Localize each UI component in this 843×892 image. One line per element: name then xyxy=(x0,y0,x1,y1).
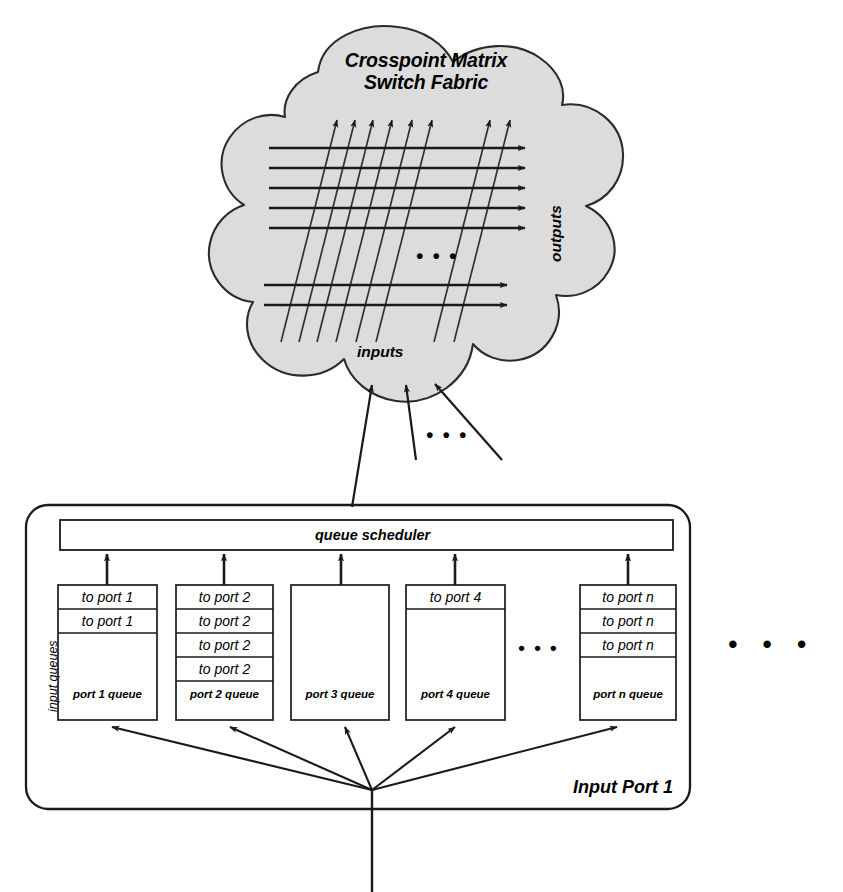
queue-cell: to port 1 xyxy=(58,614,157,630)
queue-cell: to port 2 xyxy=(176,590,273,606)
queue-cell: to port 2 xyxy=(176,614,273,630)
fabric-title: Crosspoint Matrix Switch Fabric xyxy=(337,50,515,94)
diagram-vector-layer xyxy=(0,0,843,892)
queue-columns-ellipsis: • • • xyxy=(518,637,559,658)
queue-cell: to port 2 xyxy=(176,638,273,654)
fabric-title-line-2: Switch Fabric xyxy=(337,72,515,94)
queue-cell: to port 1 xyxy=(58,590,157,606)
queue-to-scheduler-arrows xyxy=(107,554,628,585)
outer-ports-ellipsis: • • • xyxy=(728,630,815,659)
queue-cell: to port 2 xyxy=(176,662,273,678)
queue-name: port 2 queue xyxy=(176,688,273,701)
queue-cell: to port 4 xyxy=(406,590,505,606)
queue-cell: to port n xyxy=(580,614,676,630)
queue-name: port 4 queue xyxy=(406,688,505,701)
queue-name: port 1 queue xyxy=(58,688,157,701)
queue-cell: to port n xyxy=(580,590,676,606)
diagram-canvas: Crosspoint Matrix Switch Fabric • • • ou… xyxy=(0,0,843,892)
input-queues-label: input queues xyxy=(46,640,60,712)
feed-ellipsis: • • • xyxy=(426,424,468,446)
input-port-box-label: Input Port 1 xyxy=(573,777,673,797)
queue-scheduler-label: queue scheduler xyxy=(315,527,430,543)
fabric-title-line-1: Crosspoint Matrix xyxy=(337,50,515,72)
queue-name: port n queue xyxy=(580,688,676,701)
matrix-ellipsis: • • • xyxy=(416,245,458,267)
outputs-label: outputs xyxy=(547,205,564,262)
inputs-label: inputs xyxy=(357,343,404,360)
queue-name: port 3 queue xyxy=(291,688,389,701)
queue-cell: to port n xyxy=(580,638,676,654)
